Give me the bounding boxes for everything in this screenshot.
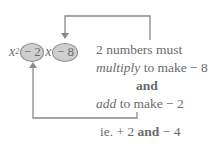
line-add: add to make − 2: [96, 96, 184, 112]
exponent: 2: [15, 48, 19, 56]
add-word: add: [96, 96, 116, 111]
constant-oval: − 8: [52, 43, 78, 62]
answer-suffix: − 4: [159, 124, 180, 139]
answer-and: and: [138, 124, 160, 139]
coefficient-oval: − 2: [20, 43, 44, 62]
quadratic-expression: x2 − 2 x − 8: [9, 41, 79, 63]
multiply-word: multiply: [96, 60, 140, 75]
multiply-arrow: [65, 16, 150, 40]
line-multiply: multiply to make − 8: [96, 60, 208, 76]
arrowhead-down-icon: [61, 33, 69, 39]
answer-line: ie. + 2 and − 4: [100, 124, 181, 140]
line-and: and: [136, 78, 158, 94]
multiply-rest: to make − 8: [140, 60, 208, 75]
line-two-numbers: 2 numbers must: [96, 42, 182, 58]
answer-prefix: ie. + 2: [100, 124, 138, 139]
x-variable-2: x: [45, 44, 51, 60]
add-rest: to make − 2: [116, 96, 184, 111]
